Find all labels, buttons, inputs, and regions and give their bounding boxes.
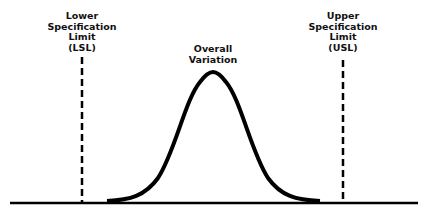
- usl-label: Upper Specification Limit (USL): [308, 11, 377, 53]
- usl-label-line: (USL): [308, 43, 377, 54]
- lsl-label-line: Limit: [47, 32, 116, 43]
- variation-label-line: Variation: [189, 55, 238, 66]
- usl-label-line: Limit: [308, 32, 377, 43]
- lsl-label-line: (LSL): [47, 43, 116, 54]
- lsl-label-line: Lower: [47, 11, 116, 22]
- lsl-label: Lower Specification Limit (LSL): [47, 11, 116, 53]
- variation-label-line: Overall: [189, 44, 238, 55]
- usl-label-line: Upper: [308, 11, 377, 22]
- normal-distribution-curve: [107, 72, 320, 201]
- overall-variation-label: Overall Variation: [189, 44, 238, 65]
